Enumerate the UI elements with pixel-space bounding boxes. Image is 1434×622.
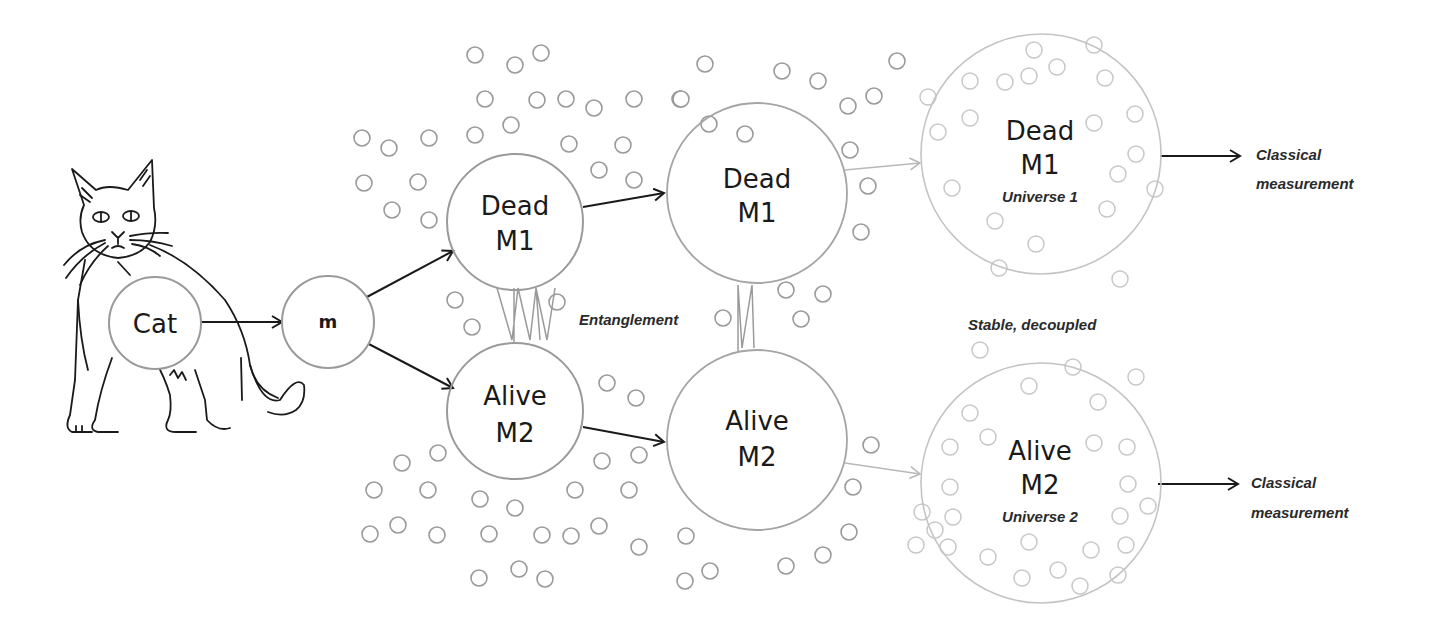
- classical-measurement-1-line2: measurement: [1256, 175, 1355, 192]
- node-cat-label: Cat: [133, 309, 177, 339]
- dead-label: Dead: [1006, 116, 1074, 146]
- node-m-label: m: [319, 311, 338, 332]
- alive-label: Alive: [1008, 436, 1072, 466]
- m2-label: M2: [1021, 470, 1060, 500]
- node-dead-m1-stage1: Dead M1: [447, 154, 583, 290]
- m1-label: M1: [738, 198, 777, 228]
- dead-label: Dead: [481, 191, 549, 221]
- node-alive-m2-stage2: Alive M2: [667, 350, 847, 530]
- universe-1-label: Universe 1: [1002, 188, 1078, 205]
- arrows-light: [845, 163, 920, 474]
- m1-label: M1: [1021, 150, 1060, 180]
- node-m: m: [282, 276, 374, 368]
- node-alive-m2-stage1: Alive M2: [447, 343, 583, 479]
- classical-measurement-2-line2: measurement: [1251, 504, 1350, 521]
- m2-label: M2: [496, 418, 535, 448]
- decoherence-diagram: Cat m Dead M1 Alive M2 Dead M1 Alive M2 …: [0, 0, 1434, 622]
- dead-label: Dead: [723, 164, 791, 194]
- m2-label: M2: [738, 442, 777, 472]
- classical-measurement-2-line1: Classical: [1251, 474, 1317, 491]
- universe-2-label: Universe 2: [1002, 508, 1079, 525]
- node-cat: Cat: [109, 277, 201, 369]
- alive-label: Alive: [725, 406, 789, 436]
- entanglement-label: Entanglement: [579, 311, 679, 328]
- alive-label: Alive: [483, 381, 547, 411]
- m1-label: M1: [496, 226, 535, 256]
- stable-decoupled-label: Stable, decoupled: [968, 316, 1097, 333]
- node-dead-m1-stage2: Dead M1: [667, 103, 847, 283]
- classical-measurement-1-line1: Classical: [1256, 146, 1322, 163]
